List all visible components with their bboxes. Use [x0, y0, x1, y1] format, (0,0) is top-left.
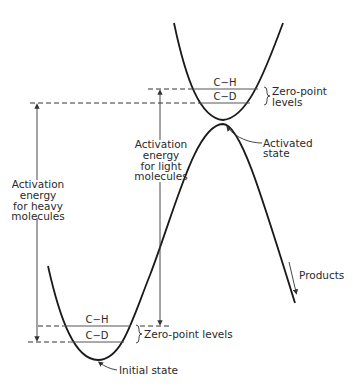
light-activation-label-4: molecules: [134, 170, 187, 182]
bottom-cd-label: C−D: [85, 330, 108, 341]
top-ch-label: C−H: [214, 77, 237, 88]
initial-state-label: Initial state: [119, 364, 178, 376]
activated-state-label-2: state: [263, 147, 290, 159]
bottom-zero-point-label: Zero-point levels: [144, 328, 233, 340]
initial-state-pointer: [100, 363, 117, 370]
heavy-activation-label-4: molecules: [11, 210, 64, 222]
products-label: Products: [299, 269, 344, 281]
bottom-zero-point-brace: [136, 325, 142, 343]
potential-energy-diagram: C−H C−D Zero-point levels Activated stat…: [0, 0, 353, 388]
bottom-ch-label: C−H: [86, 314, 109, 325]
top-cd-label: C−D: [213, 91, 236, 102]
top-zero-point-label-2: levels: [272, 96, 302, 108]
top-zero-point-brace: [264, 87, 270, 105]
upper-potential-curve: [174, 23, 283, 120]
